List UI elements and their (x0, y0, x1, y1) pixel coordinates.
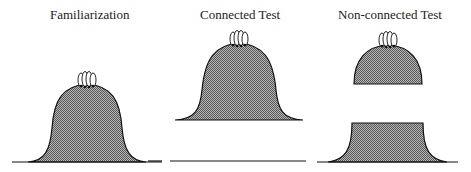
familiarization-surface (12, 72, 162, 163)
diagram (0, 0, 471, 172)
connected-test-surface (148, 31, 306, 162)
non-connected-test-surface (317, 32, 458, 163)
